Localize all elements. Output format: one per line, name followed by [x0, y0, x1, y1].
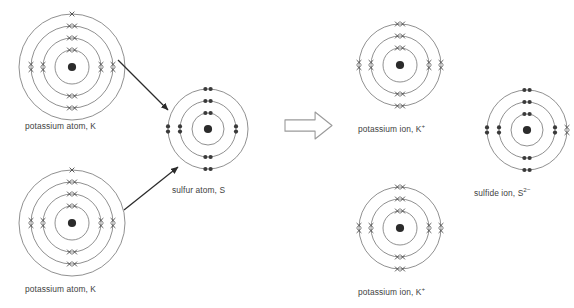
transfer-arrow-top	[118, 60, 168, 110]
transfer-arrow-bottom	[124, 167, 178, 210]
reaction-block-arrow	[285, 112, 332, 139]
